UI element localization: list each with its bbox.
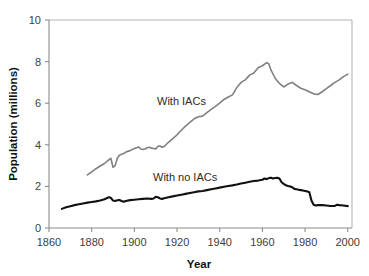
x-tick-label: 1960 xyxy=(250,236,274,248)
x-tick-label: 1860 xyxy=(37,236,61,248)
y-tick-label: 8 xyxy=(35,56,41,68)
x-tick-label: 1920 xyxy=(165,236,189,248)
x-axis-title: Year xyxy=(187,258,212,270)
x-tick-label: 2000 xyxy=(335,236,359,248)
x-tick-label: 1940 xyxy=(207,236,231,248)
y-axis-ticks: 0246810 xyxy=(29,14,49,234)
x-axis-ticks: 18601880190019201940196019802000 xyxy=(37,228,360,248)
y-tick-label: 10 xyxy=(29,14,41,26)
chart-figure: 0246810 18601880190019201940196019802000… xyxy=(0,0,369,276)
data-series-group xyxy=(62,63,348,209)
series-annotation-with-iacs: With IACs xyxy=(157,95,206,107)
series-line-with-iacs xyxy=(87,63,347,175)
y-tick-label: 4 xyxy=(35,139,41,151)
y-axis-title: Population (millions) xyxy=(7,67,19,181)
axes xyxy=(49,20,352,228)
chart-canvas: 0246810 18601880190019201940196019802000… xyxy=(0,0,369,276)
y-tick-label: 6 xyxy=(35,97,41,109)
x-tick-label: 1980 xyxy=(293,236,317,248)
x-tick-label: 1900 xyxy=(122,236,146,248)
series-annotation-with-no-iacs: With no IACs xyxy=(153,171,218,183)
y-tick-label: 0 xyxy=(35,222,41,234)
plot-frame xyxy=(49,20,352,228)
x-tick-label: 1880 xyxy=(79,236,103,248)
y-tick-label: 2 xyxy=(35,180,41,192)
